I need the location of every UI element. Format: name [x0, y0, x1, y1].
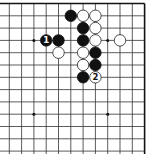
- black-stone: [90, 47, 102, 59]
- black-stone: [53, 35, 65, 47]
- grid-lines: [0, 4, 145, 155]
- white-stone: [53, 47, 65, 59]
- black-stone: [77, 35, 89, 47]
- white-stone: [90, 10, 102, 21]
- black-stone: [90, 59, 102, 71]
- move-number-label: 2: [92, 72, 98, 82]
- black-stone: [65, 10, 77, 21]
- white-stone: [90, 22, 102, 33]
- white-stone: [77, 59, 89, 71]
- star-point: [106, 39, 109, 42]
- white-stone: 2: [90, 72, 102, 84]
- white-stone: [77, 47, 89, 59]
- move-number-label: 1: [43, 35, 49, 45]
- star-point: [106, 113, 109, 116]
- white-stone: [114, 35, 126, 47]
- star-point: [32, 113, 35, 116]
- black-stone: [77, 72, 89, 84]
- stones: 12: [40, 10, 125, 83]
- black-stone: 1: [40, 35, 52, 47]
- go-board: 12: [0, 0, 149, 154]
- white-stone: [90, 35, 102, 47]
- black-stone: [77, 22, 89, 33]
- white-stone: [77, 10, 89, 21]
- star-point: [32, 39, 35, 42]
